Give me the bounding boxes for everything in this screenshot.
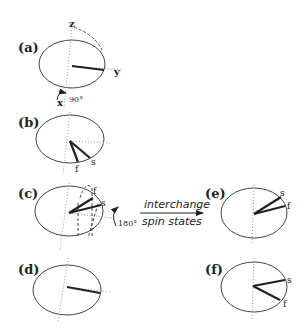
ellipse [33, 265, 101, 315]
panel-a: (a) z y x 90° [18, 18, 122, 108]
arrow-top-label: interchange [144, 198, 210, 211]
z-axis [252, 185, 254, 244]
panel-label-b: (b) [18, 115, 39, 130]
panel-b: (b) f s [18, 112, 110, 175]
projection-line [88, 204, 98, 238]
y-axis [69, 213, 112, 218]
z-axis [58, 258, 68, 322]
vector [67, 287, 100, 293]
ellipse [36, 115, 104, 163]
vector-f-label: f [93, 186, 97, 196]
z-axis [252, 258, 254, 320]
vector-s-label: s [287, 275, 292, 285]
vector-f-label: f [287, 201, 291, 211]
vector-s-label: s [91, 157, 96, 167]
vector-s-label: s [280, 188, 285, 198]
z-axis [60, 183, 69, 250]
vector-f-label: f [283, 299, 287, 309]
panel-label-d: (d) [18, 262, 39, 277]
arrow-bottom-label: spin states [142, 215, 202, 228]
ellipse [39, 40, 105, 88]
vector-s [253, 280, 285, 286]
panel-e: (e) s f [205, 185, 291, 244]
spin-diagram: (a) z y x 90° (b) f s (c) f s 180° [0, 0, 307, 331]
interchange-arrow: interchange spin states [140, 198, 210, 228]
z-axis-label: z [69, 18, 75, 29]
panel-label-c: (c) [18, 186, 38, 201]
rotation-label: 90° [69, 95, 83, 104]
panel-f: (f) s f [205, 258, 292, 320]
panel-c: (c) f s 180° [18, 183, 137, 250]
vector-f-label: f [75, 164, 79, 174]
vector-s-label: s [101, 198, 106, 208]
vector-f [253, 286, 280, 300]
rotation-arc [74, 27, 102, 50]
x-axis-label: x [57, 97, 64, 108]
panel-label-f: (f) [205, 262, 223, 277]
panel-label-a: (a) [18, 40, 39, 55]
y-axis-label: y [113, 66, 121, 77]
rotation-label: 180° [118, 219, 137, 228]
panel-label-e: (e) [205, 186, 226, 201]
panel-d: (d) [18, 258, 110, 322]
z-axis [63, 112, 70, 175]
